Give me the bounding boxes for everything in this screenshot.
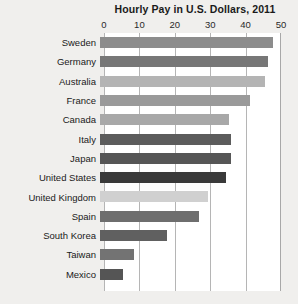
bar-track xyxy=(100,149,278,168)
category-label-germany: Germany xyxy=(0,56,100,67)
bar-row: Taiwan xyxy=(0,245,298,264)
bar-row: Spain xyxy=(0,207,298,226)
bar-track xyxy=(100,52,278,71)
bar-row: Canada xyxy=(0,110,298,129)
bar-row: France xyxy=(0,91,298,110)
bar-germany xyxy=(100,56,268,67)
x-tick-label-20: 20 xyxy=(170,19,181,30)
category-label-south-korea: South Korea xyxy=(0,230,100,241)
bar-track xyxy=(100,265,278,284)
bar-france xyxy=(100,95,250,106)
x-tick-label-40: 40 xyxy=(240,19,251,30)
bar-row: United States xyxy=(0,168,298,187)
bar-mexico xyxy=(100,269,123,280)
bar-row: Italy xyxy=(0,130,298,149)
bar-track xyxy=(100,187,278,206)
category-label-japan: Japan xyxy=(0,153,100,164)
category-label-canada: Canada xyxy=(0,114,100,125)
bar-track xyxy=(100,168,278,187)
x-tick-label-30: 30 xyxy=(205,19,216,30)
bar-chart: Hourly Pay in U.S. Dollars, 2011 0102030… xyxy=(0,0,298,304)
bar-track xyxy=(100,207,278,226)
category-label-united-kingdom: United Kingdom xyxy=(0,192,100,203)
bar-row: Sweden xyxy=(0,33,298,52)
bar-row: Germany xyxy=(0,52,298,71)
category-label-taiwan: Taiwan xyxy=(0,249,100,260)
bar-track xyxy=(100,245,278,264)
bar-japan xyxy=(100,153,231,164)
x-tick-label-10: 10 xyxy=(134,19,145,30)
bar-sweden xyxy=(100,37,273,48)
bar-track xyxy=(100,72,278,91)
bar-track xyxy=(100,91,278,110)
x-tick-label-50: 50 xyxy=(276,19,287,30)
bar-united-states xyxy=(100,172,226,183)
category-label-sweden: Sweden xyxy=(0,37,100,48)
bar-united-kingdom xyxy=(100,191,208,202)
bar-track xyxy=(100,130,278,149)
bar-australia xyxy=(100,76,265,87)
category-label-united-states: United States xyxy=(0,172,100,183)
bar-taiwan xyxy=(100,249,134,260)
chart-title: Hourly Pay in U.S. Dollars, 2011 xyxy=(95,3,295,15)
bar-italy xyxy=(100,134,231,145)
bar-row: Japan xyxy=(0,149,298,168)
bar-south-korea xyxy=(100,230,167,241)
bar-canada xyxy=(100,114,229,125)
category-label-australia: Australia xyxy=(0,76,100,87)
bar-row: United Kingdom xyxy=(0,187,298,206)
bar-row: Australia xyxy=(0,72,298,91)
bar-track xyxy=(100,226,278,245)
bar-row: South Korea xyxy=(0,226,298,245)
category-label-france: France xyxy=(0,95,100,106)
bar-rows: SwedenGermanyAustraliaFranceCanadaItalyJ… xyxy=(0,33,298,291)
bar-track xyxy=(100,33,278,52)
bar-row: Mexico xyxy=(0,265,298,284)
bar-spain xyxy=(100,211,199,222)
category-label-spain: Spain xyxy=(0,211,100,222)
x-tick-label-0: 0 xyxy=(101,19,106,30)
category-label-italy: Italy xyxy=(0,134,100,145)
category-label-mexico: Mexico xyxy=(0,269,100,280)
bar-track xyxy=(100,110,278,129)
x-axis-tick-labels: 01020304050 xyxy=(0,19,298,31)
